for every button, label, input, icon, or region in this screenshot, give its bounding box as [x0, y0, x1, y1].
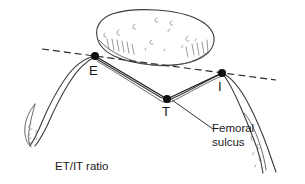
point-marker-T — [163, 95, 171, 103]
femoral-sulcus-group — [95, 58, 222, 103]
medial-condyle-inner-edge — [35, 57, 95, 146]
point-label-E: E — [89, 64, 98, 77]
figure-container: E T I Femoral sulcus ET/IT ratio — [0, 0, 305, 184]
patella-outline — [97, 10, 214, 66]
medial-condyle-marrow-edge — [29, 104, 35, 147]
point-marker-E — [91, 52, 99, 60]
point-label-T: T — [162, 105, 170, 118]
patella-cartilage-hatching — [107, 39, 208, 57]
femoral-sulcus-annotation-line2: sulcus — [212, 136, 254, 150]
patella-group — [97, 10, 214, 66]
et-segment — [95, 56, 167, 99]
patella-trabecular-texture — [104, 18, 196, 51]
point-marker-I — [218, 69, 226, 77]
femoral-sulcus-annotation: Femoral sulcus — [212, 122, 254, 150]
femoral-sulcus-annotation-line1: Femoral — [212, 122, 254, 136]
medial-condyle-outline — [30, 56, 95, 146]
it-segment — [167, 73, 222, 99]
anatomical-line-drawing — [0, 0, 305, 184]
point-label-I: I — [218, 80, 222, 93]
femoral-sulcus-leader-line — [172, 100, 213, 129]
medial-femoral-condyle-group — [25, 56, 95, 147]
et-it-ratio-caption: ET/IT ratio — [55, 160, 108, 174]
et-it-measurement-lines — [95, 56, 222, 99]
